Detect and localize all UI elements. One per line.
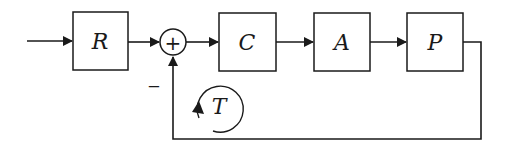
block-p: P (407, 13, 463, 71)
block-a-label: A (332, 30, 350, 55)
block-diagram: R + C A P − T (0, 0, 505, 153)
circular-arrowhead-icon (192, 101, 204, 114)
block-p-label: P (427, 30, 444, 55)
block-c-label: C (239, 30, 256, 55)
block-a: A (314, 13, 370, 71)
block-c: C (219, 13, 276, 71)
plus-sign: + (165, 31, 182, 55)
block-r: R (73, 12, 128, 70)
summing-junction: + (160, 29, 186, 55)
minus-sign: − (148, 74, 160, 99)
loop-label: T (212, 94, 229, 119)
block-r-label: R (91, 29, 109, 54)
loop-indicator: T (192, 86, 243, 132)
